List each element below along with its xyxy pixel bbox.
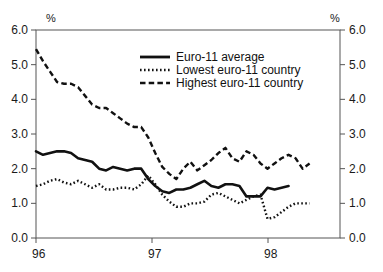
y-tick-label-6: 6.0 [11, 23, 28, 37]
series-line-lowest-euro-11-country [36, 176, 310, 219]
x-tick-label-98: 98 [264, 247, 278, 261]
x-tick-label-97: 97 [148, 247, 162, 261]
legend-label-highest-euro-11-country: Highest euro-11 country [176, 76, 303, 90]
series-line-euro-11-average [36, 151, 289, 196]
y-tick-label-right-6: 6.0 [349, 23, 366, 37]
y-tick-label-right-0: 0.0 [349, 231, 366, 245]
chart-figure: % % 0.0 1.0 2.0 3.0 4.0 5.0 6.0 [0, 0, 383, 272]
y-tick-label-right-3: 3.0 [349, 127, 366, 141]
y-tick-label-right-2: 2.0 [349, 162, 366, 176]
right-axis-unit: % [330, 12, 340, 24]
line-chart: % % 0.0 1.0 2.0 3.0 4.0 5.0 6.0 [0, 0, 383, 272]
left-y-axis: 0.0 1.0 2.0 3.0 4.0 5.0 6.0 [11, 23, 36, 245]
y-tick-label-0: 0.0 [11, 231, 28, 245]
left-axis-unit: % [46, 12, 56, 24]
right-y-axis: 0.0 1.0 2.0 3.0 4.0 5.0 6.0 [340, 23, 366, 245]
chart-legend: Euro-11 average Lowest euro-11 country H… [140, 50, 303, 90]
y-tick-label-2: 2.0 [11, 162, 28, 176]
legend-label-euro-11-average: Euro-11 average [176, 50, 265, 64]
y-tick-label-right-4: 4.0 [349, 92, 366, 106]
y-tick-label-1: 1.0 [11, 196, 28, 210]
y-tick-label-right-1: 1.0 [349, 196, 366, 210]
y-tick-label-right-5: 5.0 [349, 58, 366, 72]
x-tick-label-96: 96 [32, 247, 46, 261]
legend-label-lowest-euro-11-country: Lowest euro-11 country [176, 63, 301, 77]
y-tick-label-3: 3.0 [11, 127, 28, 141]
x-axis: 96 97 98 [32, 238, 278, 261]
y-tick-label-5: 5.0 [11, 58, 28, 72]
y-tick-label-4: 4.0 [11, 92, 28, 106]
